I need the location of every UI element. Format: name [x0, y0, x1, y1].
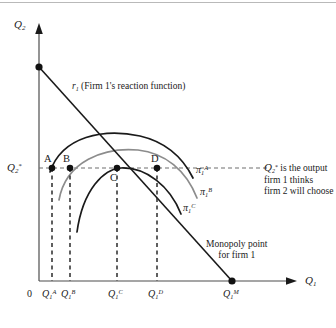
q2-star-inline-symbol: Q2*: [264, 163, 278, 173]
point-label-D: D: [151, 153, 159, 165]
x-tick-label-C: Q1C: [108, 288, 123, 300]
point-label-C: C: [110, 172, 117, 184]
x-tick-label-D: Q1D: [148, 288, 163, 300]
isoprofit-curve-pi-1-B: [59, 150, 197, 200]
x-tick-label-B: Q1B: [61, 288, 75, 300]
q2-star-axis-label: Q2*: [7, 161, 22, 175]
y-axis-label: Q2: [14, 18, 25, 32]
origin-label: 0: [27, 288, 32, 300]
monopoly-point-annotation: Monopoly point for firm 1: [206, 239, 268, 261]
point-A: [49, 165, 56, 172]
isoprofit-label-pi-1-C: π1C: [183, 202, 195, 214]
isoprofit-curve-pi-1-C: [77, 168, 181, 232]
point-reaction-intercept: [35, 63, 42, 70]
y-axis-arrowhead: [35, 23, 43, 34]
x-tick-label-A: Q1A: [42, 288, 56, 300]
point-D: [154, 165, 161, 172]
point-C: [114, 165, 121, 172]
x-axis-label: Q1: [305, 274, 316, 288]
reaction-function-label: r1 (Firm 1's reaction function): [72, 81, 185, 93]
x-tick-label-M: Q1M: [223, 288, 239, 300]
isoprofit-label-pi-1-A: π1A: [196, 164, 208, 176]
point-label-B: B: [63, 153, 70, 165]
isoprofit-curve-pi-1-A: [50, 133, 193, 178]
point-monopoly: [228, 277, 235, 284]
isoprofit-label-pi-1-B: π1B: [200, 186, 212, 198]
figure-container: Q2 Q1 0 Q2* Q1A Q1B Q1C Q1D Q1M A B C D …: [0, 0, 336, 328]
point-label-A: A: [44, 153, 52, 165]
point-B: [67, 165, 74, 172]
x-axis-arrowhead: [286, 277, 297, 285]
q2-star-explanation: Q2* is the output firm 1 thinks firm 2 w…: [264, 161, 333, 197]
